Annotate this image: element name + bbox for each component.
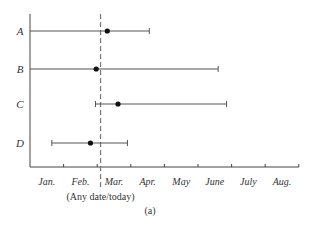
estimate-point bbox=[88, 140, 93, 145]
x-tick-label: Apr. bbox=[138, 176, 155, 187]
x-tick-label: Mar. bbox=[104, 176, 124, 187]
axes bbox=[30, 14, 299, 167]
x-tick-label: July bbox=[240, 176, 257, 187]
estimate-point bbox=[115, 101, 120, 106]
row-label: B bbox=[17, 63, 24, 75]
x-tick-label: Aug. bbox=[272, 176, 292, 187]
row-label: A bbox=[16, 25, 24, 37]
interval-row-b: B bbox=[17, 63, 219, 75]
x-tick-label: June bbox=[205, 176, 224, 187]
interval-row-c: C bbox=[16, 98, 226, 110]
estimate-point bbox=[105, 28, 110, 33]
interval-rows: ABCD bbox=[15, 25, 227, 149]
row-label: C bbox=[16, 98, 24, 110]
x-tick-label: Feb. bbox=[70, 176, 89, 187]
interval-chart: ABCD Jan.Feb.Mar.Apr.MayJuneJulyAug. (An… bbox=[0, 0, 316, 238]
reference-line-label: (Any date/today) bbox=[67, 191, 135, 203]
figure-caption: (a) bbox=[144, 205, 155, 217]
x-tick-label: May bbox=[171, 176, 190, 187]
interval-row-d: D bbox=[15, 137, 127, 149]
x-tick-label: Jan. bbox=[38, 176, 55, 187]
row-label: D bbox=[15, 137, 24, 149]
interval-row-a: A bbox=[16, 25, 150, 37]
estimate-point bbox=[94, 66, 99, 71]
x-axis-labels: Jan.Feb.Mar.Apr.MayJuneJulyAug. bbox=[38, 176, 291, 187]
